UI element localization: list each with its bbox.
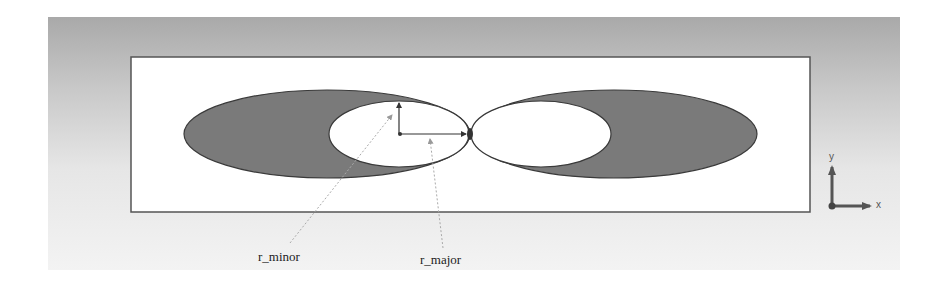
right-inner-ellipse	[471, 101, 611, 167]
geometry-canvas	[0, 0, 933, 283]
coordinate-triad	[829, 167, 871, 210]
r-minor-label: r_minor	[258, 249, 300, 265]
triad-y-label: y	[829, 151, 834, 162]
triad-x-label: x	[876, 199, 881, 210]
triad-origin-icon	[829, 203, 836, 210]
contact-point	[467, 128, 473, 140]
right-shell	[471, 90, 757, 178]
inner-ellipse-center	[398, 132, 402, 136]
r-major-label: r_major	[420, 252, 461, 268]
